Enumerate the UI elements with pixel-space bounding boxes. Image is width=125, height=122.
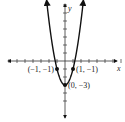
points-layer: (−1, −1)(1, −1)(0, −3): [28, 65, 99, 90]
axes: [8, 4, 117, 118]
data-point: [71, 67, 75, 71]
x-axis-label: x: [116, 64, 121, 73]
point-label: (0, −3): [68, 81, 90, 90]
point-label: (−1, −1): [28, 65, 55, 74]
y-axis-label: y: [67, 4, 72, 13]
parabola-chart: (−1, −1)(1, −1)(0, −3) x y: [0, 0, 125, 122]
data-point: [63, 83, 67, 87]
point-label: (1, −1): [76, 65, 98, 74]
data-point: [55, 67, 59, 71]
